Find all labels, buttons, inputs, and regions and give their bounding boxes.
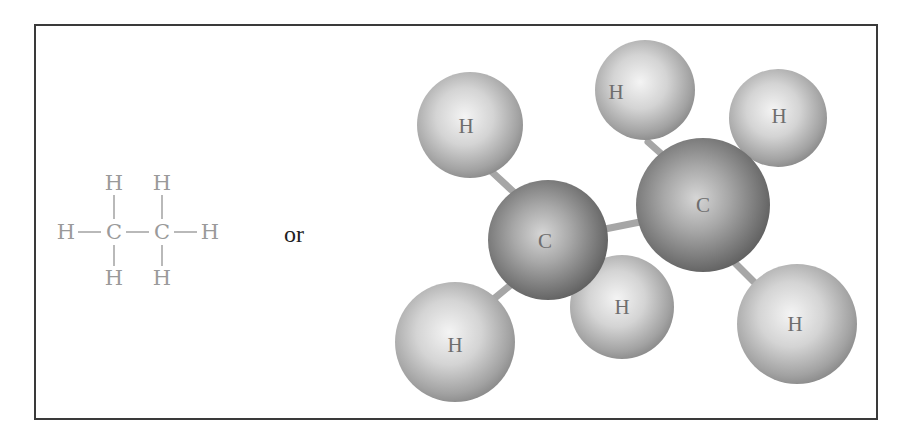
- svg-text:H: H: [771, 104, 786, 128]
- atom-c2: C: [636, 138, 770, 272]
- atom-h4: H: [395, 282, 515, 402]
- svg-text:H: H: [458, 114, 473, 138]
- ball-and-stick-model: H H H H C C H H: [0, 0, 897, 443]
- svg-text:C: C: [696, 193, 710, 217]
- svg-text:H: H: [608, 80, 623, 104]
- svg-text:C: C: [538, 229, 552, 253]
- atom-h6: H: [737, 264, 857, 384]
- bond-c2-h6: [733, 261, 756, 284]
- atom-h1: H: [417, 72, 523, 178]
- svg-text:H: H: [614, 295, 629, 319]
- svg-text:H: H: [787, 312, 802, 336]
- atom-h2: H: [595, 40, 695, 140]
- atom-c1: C: [488, 180, 608, 300]
- svg-text:H: H: [447, 333, 462, 357]
